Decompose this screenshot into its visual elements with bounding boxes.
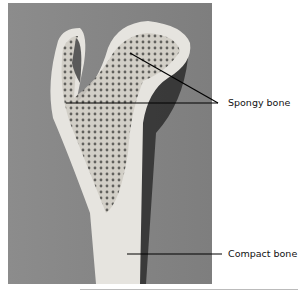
- spongy-leader-line-1: [130, 53, 218, 103]
- label-spongy-bone: Spongy bone: [228, 97, 290, 108]
- label-compact-bone: Compact bone: [228, 248, 297, 259]
- figure: Spongy bone Compact bone: [0, 0, 298, 291]
- divider: [80, 289, 298, 290]
